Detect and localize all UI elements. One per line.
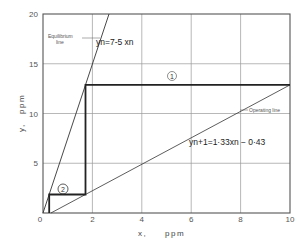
x-axis-label-var: x, <box>138 229 147 238</box>
svg-text:10: 10 <box>286 215 295 224</box>
svg-text:4: 4 <box>140 215 145 224</box>
y-axis-label-var: y, <box>17 123 26 132</box>
x-tick-labels: 0 2 4 6 8 10 <box>38 215 295 224</box>
y-tick-labels: 20 15 10 5 <box>29 10 38 168</box>
operating-line <box>51 85 290 213</box>
svg-text:2: 2 <box>61 186 65 193</box>
operating-note: Operating line <box>249 107 280 113</box>
svg-text:2: 2 <box>90 215 95 224</box>
svg-text:10: 10 <box>29 110 38 119</box>
svg-text:5: 5 <box>34 159 39 168</box>
svg-text:0: 0 <box>38 215 43 224</box>
operating-equation: yn+1=1·33xn − 0·43 <box>189 137 266 147</box>
chart-svg: 20 15 10 5 0 2 4 6 8 10 x, ppm y, ppm Eq… <box>0 0 300 248</box>
equilibrium-note-line2: line <box>56 39 64 45</box>
svg-text:1: 1 <box>170 73 174 80</box>
svg-text:20: 20 <box>29 10 38 19</box>
svg-text:15: 15 <box>29 60 38 69</box>
stage-2-marker: 2 <box>58 184 68 194</box>
x-axis-label-unit: ppm <box>165 229 185 238</box>
svg-text:6: 6 <box>189 215 194 224</box>
grid <box>43 14 290 213</box>
stage-1-marker: 1 <box>168 72 177 81</box>
y-axis-label-unit: ppm <box>17 94 26 114</box>
equilibrium-equation: yn=7-5 xn <box>96 37 134 47</box>
svg-text:8: 8 <box>238 215 243 224</box>
